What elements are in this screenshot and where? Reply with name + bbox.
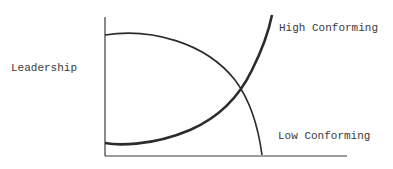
- high-conforming-curve: [105, 15, 272, 144]
- y-axis-label: Leadership: [11, 63, 77, 74]
- low-conforming-label: Low Conforming: [278, 131, 370, 142]
- high-conforming-label: High Conforming: [279, 23, 378, 34]
- diagram-canvas: Leadership High Conforming Low Conformin…: [0, 0, 393, 169]
